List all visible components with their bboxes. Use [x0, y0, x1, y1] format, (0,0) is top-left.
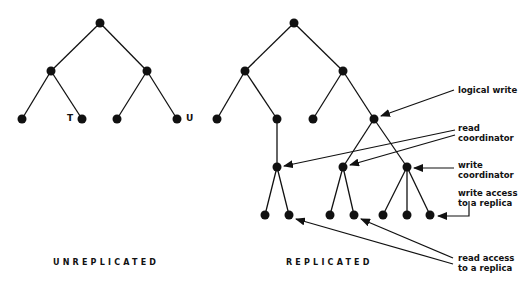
- node-replica: [379, 211, 388, 220]
- replicated-nodes: [213, 19, 435, 220]
- node-replica-read: [350, 211, 359, 220]
- label-read-access: read access to a replica: [458, 253, 514, 273]
- node-leaf: [309, 115, 318, 124]
- label-write-access: write access to a replica: [458, 188, 517, 208]
- label-logical-write: logical write: [458, 85, 517, 95]
- arrow-logical-write: [381, 90, 454, 116]
- node-t-replicated: [273, 115, 282, 124]
- node-write-coordinator-u: [403, 163, 412, 172]
- node-replica: [261, 211, 270, 220]
- unreplicated-nodes: [18, 19, 182, 124]
- node-replica: [403, 211, 412, 220]
- arrow-read-access-u: [361, 219, 453, 258]
- replicated-tree: [217, 23, 430, 215]
- node-leaf: [213, 115, 222, 124]
- node-leaf-t: [78, 115, 87, 124]
- node: [241, 67, 250, 76]
- node-leaf: [113, 115, 122, 124]
- node-read-coordinator-u: [339, 163, 348, 172]
- node-leaf-u: [173, 115, 182, 124]
- node-root: [96, 19, 105, 28]
- leaf-label-u: U: [186, 113, 193, 123]
- label-write-coordinator: write coordinator: [458, 160, 514, 180]
- node: [339, 67, 348, 76]
- node-leaf: [18, 115, 27, 124]
- node-u-logical-write: [370, 115, 379, 124]
- node-replica-write: [426, 211, 435, 220]
- node-replica: [326, 211, 335, 220]
- node-read-coordinator-t: [273, 163, 282, 172]
- leaf-label-t: T: [67, 113, 73, 123]
- node: [143, 67, 152, 76]
- node-replica-read: [285, 211, 294, 220]
- arrow-read-coordinator-t: [284, 130, 455, 166]
- node-root: [290, 19, 299, 28]
- node: [47, 67, 56, 76]
- unreplicated-tree: [22, 23, 177, 119]
- tree-diagram: [0, 0, 530, 289]
- label-read-coordinator: read coordinator: [458, 123, 514, 143]
- caption-unreplicated: UNREPLICATED: [53, 258, 159, 267]
- caption-replicated: REPLICATED: [286, 258, 373, 267]
